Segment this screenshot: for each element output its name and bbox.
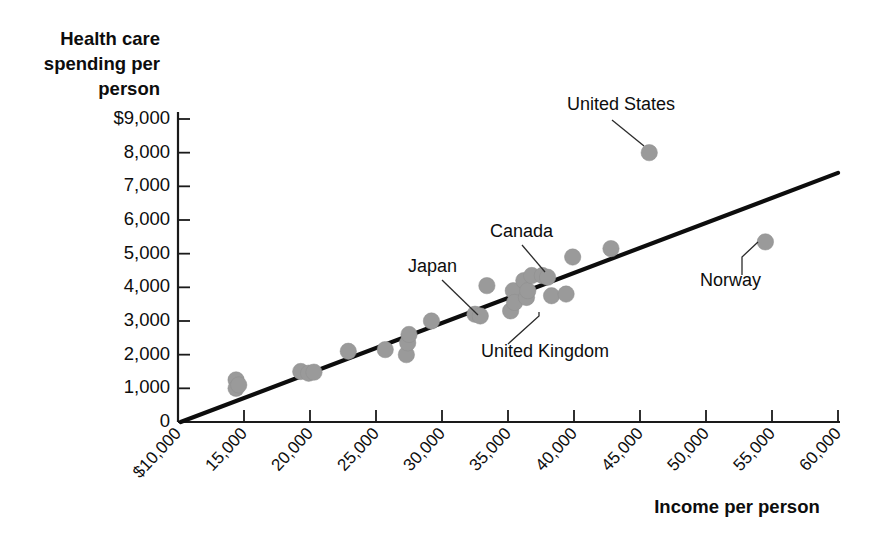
y-tick-label: 7,000 — [124, 174, 170, 195]
annotation-label: Norway — [700, 270, 761, 290]
scatter-plot-svg: Health care spending per person $9,0008,… — [0, 0, 881, 537]
data-point — [564, 249, 580, 265]
x-tick-label: 50,000 — [664, 424, 713, 475]
x-tick-label: 60,000 — [796, 424, 845, 475]
chart-figure: Health care spending per person $9,0008,… — [0, 0, 881, 537]
x-axis-title: Income per person — [654, 496, 820, 517]
data-point — [472, 308, 488, 324]
data-point — [757, 234, 773, 250]
y-tick-label: 1,000 — [124, 376, 170, 397]
y-tick-label: 5,000 — [124, 242, 170, 263]
x-tick-label: 45,000 — [598, 424, 647, 475]
annotation-label: Canada — [490, 221, 554, 241]
data-point — [423, 313, 439, 329]
x-tick-label: 35,000 — [466, 424, 515, 475]
data-point — [401, 326, 417, 342]
y-tick-label: 6,000 — [124, 208, 170, 229]
data-point — [641, 144, 657, 160]
y-axis-title-line-3: person — [98, 78, 160, 99]
data-point — [520, 283, 536, 299]
x-tick-label: 55,000 — [730, 424, 779, 475]
annotation-group: United StatesCanadaJapanUnited KingdomNo… — [408, 94, 761, 361]
data-point — [603, 240, 619, 256]
y-axis-title-line-1: Health care — [60, 28, 160, 49]
x-tick-label: $10,000 — [129, 424, 185, 482]
annotation-leader — [442, 280, 478, 315]
y-axis-title-line-2: spending per — [44, 53, 160, 74]
annotation-label: United States — [567, 94, 675, 114]
y-tick-label: 4,000 — [124, 275, 170, 296]
y-tick-label: $9,000 — [113, 107, 170, 128]
data-point — [539, 269, 555, 285]
annotation-label: Japan — [408, 256, 457, 276]
x-tick-label: 40,000 — [532, 424, 581, 475]
annotation-label: United Kingdom — [481, 341, 609, 361]
data-point — [543, 288, 559, 304]
y-axis-title: Health care spending per person — [44, 28, 160, 99]
x-tick-label: 15,000 — [202, 424, 251, 475]
x-tick-label: 30,000 — [400, 424, 449, 475]
x-tick-label: 20,000 — [268, 424, 317, 475]
x-axis-ticks: $10,00015,00020,00025,00030,00035,00040,… — [129, 410, 845, 482]
data-point — [340, 343, 356, 359]
y-tick-label: 3,000 — [124, 309, 170, 330]
data-point — [479, 277, 495, 293]
y-tick-label: 2,000 — [124, 343, 170, 364]
data-point — [558, 286, 574, 302]
annotation-leader — [612, 120, 644, 146]
data-point — [231, 377, 247, 393]
x-tick-label: 25,000 — [334, 424, 383, 475]
data-point — [377, 341, 393, 357]
y-tick-label: 8,000 — [124, 141, 170, 162]
data-point — [306, 364, 322, 380]
